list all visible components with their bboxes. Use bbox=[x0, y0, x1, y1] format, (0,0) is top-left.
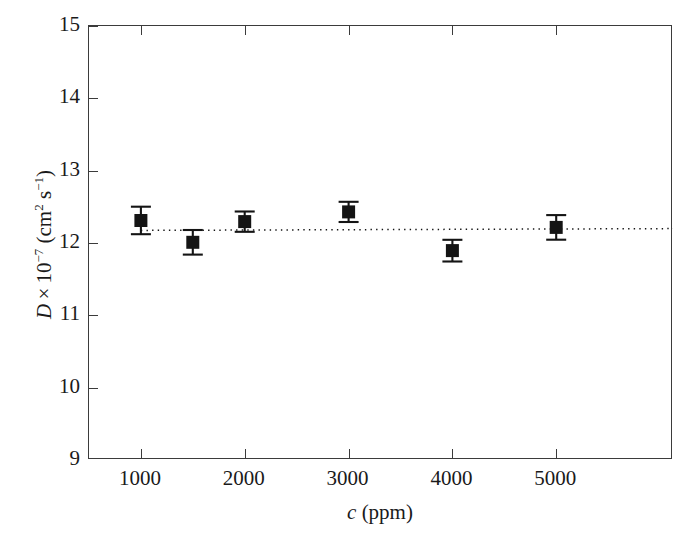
y-axis-unit-mid: s bbox=[32, 191, 56, 204]
data-point-1500 bbox=[183, 230, 203, 255]
y-axis-title: D × 10−7 (cm2 s−1) bbox=[32, 35, 57, 455]
figure-diffusion-vs-concentration: 15 14 13 12 11 10 9 1000 2000 3000 4000 … bbox=[0, 0, 698, 540]
data-point-3000 bbox=[339, 202, 359, 222]
y-axis-factor-exponent: −7 bbox=[31, 249, 46, 263]
x-tick-label-2000: 2000 bbox=[199, 468, 289, 489]
x-axis-title: c (ppm) bbox=[88, 500, 672, 525]
x-tick-label-3000: 3000 bbox=[303, 468, 393, 489]
y-axis-unit-exponent-2: −1 bbox=[31, 177, 46, 191]
x-axis-unit: (ppm) bbox=[362, 500, 413, 524]
y-axis-times: × bbox=[32, 288, 56, 300]
y-axis-symbol: D bbox=[32, 304, 56, 319]
data-point-4000 bbox=[442, 240, 462, 262]
data-layer bbox=[89, 26, 673, 460]
y-axis-unit-exponent-1: 2 bbox=[31, 204, 46, 211]
data-point-2000 bbox=[235, 212, 255, 232]
x-tick-label-1000: 1000 bbox=[95, 468, 185, 489]
plot-area bbox=[88, 25, 672, 459]
trend-line bbox=[141, 229, 673, 231]
x-tick-label-4000: 4000 bbox=[406, 468, 496, 489]
x-tick-label-5000: 5000 bbox=[510, 468, 600, 489]
data-point-1000 bbox=[131, 207, 151, 235]
y-tick-label-15: 15 bbox=[34, 14, 80, 35]
y-axis-unit-open: (cm bbox=[32, 211, 56, 244]
x-axis-symbol: c bbox=[347, 500, 356, 524]
y-axis-factor-base: 10 bbox=[32, 263, 56, 284]
data-point-5000 bbox=[546, 215, 566, 240]
y-axis-unit-close: ) bbox=[32, 170, 56, 177]
